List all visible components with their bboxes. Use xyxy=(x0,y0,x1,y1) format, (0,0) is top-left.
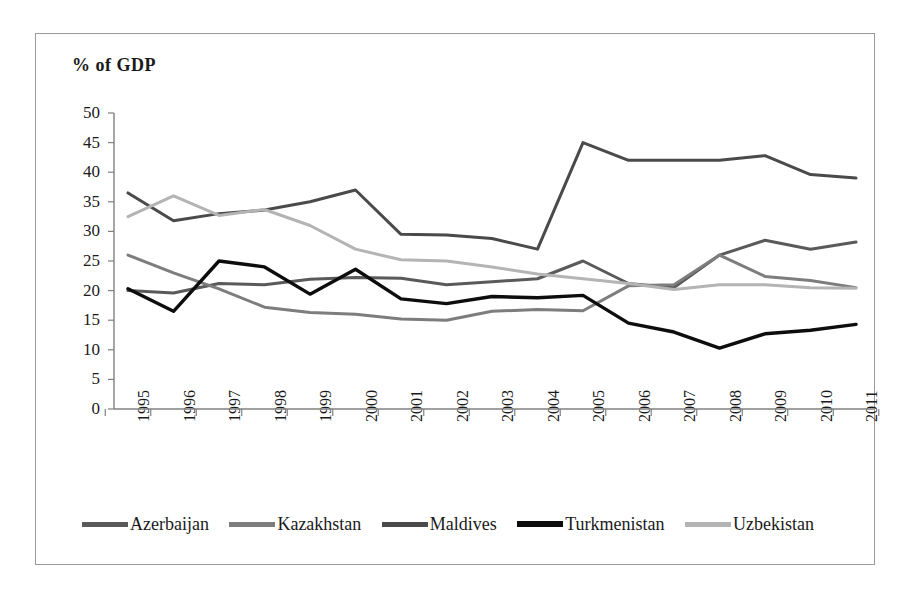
x-axis-tick-label: 2001 xyxy=(408,390,426,422)
y-axis-tick-label: 30 xyxy=(66,221,100,241)
legend-label-uzbekistan: Uzbekistan xyxy=(733,515,814,533)
y-axis-tick-label: 50 xyxy=(66,103,100,123)
x-axis-tick-label: 1995 xyxy=(135,390,153,422)
chart-legend: AzerbaijanKazakhstanMaldivesTurkmenistan… xyxy=(48,508,848,540)
legend-item-maldives[interactable]: Maldives xyxy=(382,515,497,533)
x-axis-tick-label: 2011 xyxy=(863,391,881,422)
legend-label-azerbaijan: Azerbaijan xyxy=(130,515,209,533)
x-axis-tick-label: 1996 xyxy=(181,390,199,422)
x-axis-tick-label: 1997 xyxy=(226,390,244,422)
legend-item-kazakhstan[interactable]: Kazakhstan xyxy=(229,515,361,533)
legend-item-uzbekistan[interactable]: Uzbekistan xyxy=(685,515,814,533)
legend-item-azerbaijan[interactable]: Azerbaijan xyxy=(82,515,209,533)
legend-label-turkmenistan: Turkmenistan xyxy=(565,515,664,533)
legend-swatch-kazakhstan xyxy=(229,522,275,527)
y-axis-tick-label: 10 xyxy=(66,340,100,360)
y-axis-tick-label: 40 xyxy=(66,162,100,182)
x-axis-tick-label: 2008 xyxy=(727,390,745,422)
legend-label-kazakhstan: Kazakhstan xyxy=(277,515,361,533)
x-axis-tick-label: 2005 xyxy=(590,390,608,422)
x-axis-tick-label: 2007 xyxy=(681,390,699,422)
y-axis-tick-label: 35 xyxy=(66,192,100,212)
x-axis-tick-label: 2009 xyxy=(772,390,790,422)
x-axis-tick-label: 2010 xyxy=(818,390,836,422)
y-axis-tick-label: 25 xyxy=(66,251,100,271)
y-axis-tick-label: 0 xyxy=(66,399,100,419)
y-axis-tick-label: 15 xyxy=(66,310,100,330)
figure-frame xyxy=(35,33,875,565)
y-axis-tick-label: 5 xyxy=(66,369,100,389)
x-axis-tick-label: 2002 xyxy=(454,390,472,422)
legend-label-maldives: Maldives xyxy=(430,515,497,533)
y-axis-tick-label: 45 xyxy=(66,133,100,153)
legend-swatch-uzbekistan xyxy=(685,522,731,527)
legend-swatch-turkmenistan xyxy=(517,521,563,527)
x-axis-tick-label: 1999 xyxy=(317,390,335,422)
x-axis-tick-label: 2000 xyxy=(363,390,381,422)
y-axis-tick-label: 20 xyxy=(66,281,100,301)
x-axis-tick-label: 2006 xyxy=(636,390,654,422)
x-axis-tick-label: 2004 xyxy=(545,390,563,422)
legend-swatch-azerbaijan xyxy=(82,522,128,527)
x-axis-tick-label: 1998 xyxy=(272,390,290,422)
figure-page: % of GDP 05101520253035404550 1995199619… xyxy=(0,0,911,596)
chart-title: % of GDP xyxy=(72,55,156,76)
legend-item-turkmenistan[interactable]: Turkmenistan xyxy=(517,515,664,533)
x-axis-tick-label: 2003 xyxy=(499,390,517,422)
legend-swatch-maldives xyxy=(382,522,428,527)
